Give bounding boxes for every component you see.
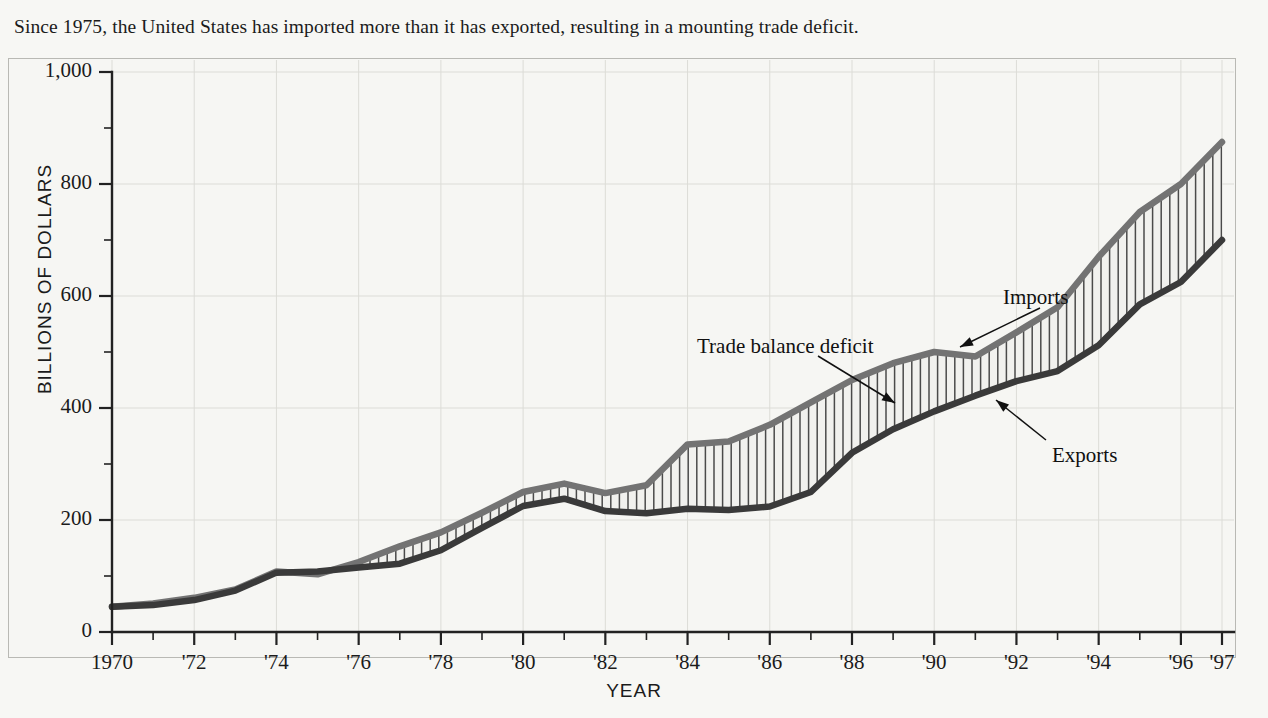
figure-caption: Since 1975, the United States has import… — [14, 14, 1254, 40]
x-tick-label: '90 — [899, 650, 969, 675]
x-tick-label: '88 — [817, 650, 887, 675]
figure-page: Since 1975, the United States has import… — [0, 0, 1268, 718]
y-tick-label: 0 — [0, 618, 92, 643]
annotation-imports: Imports — [1003, 285, 1068, 310]
x-tick-label: '74 — [241, 650, 311, 675]
x-tick-label: '97 — [1187, 650, 1257, 675]
chart-frame — [8, 58, 1236, 658]
y-tick-label: 600 — [0, 282, 92, 307]
x-tick-label: '80 — [488, 650, 558, 675]
x-tick-label: '86 — [735, 650, 805, 675]
y-tick-label: 400 — [0, 394, 92, 419]
x-tick-label: 1970 — [77, 650, 147, 675]
x-tick-label: '78 — [406, 650, 476, 675]
x-tick-label: '76 — [324, 650, 394, 675]
x-axis-title: YEAR — [0, 680, 1268, 702]
y-tick-label: 800 — [0, 170, 92, 195]
x-tick-label: '92 — [981, 650, 1051, 675]
x-tick-label: '72 — [159, 650, 229, 675]
y-tick-label: 200 — [0, 506, 92, 531]
x-tick-label: '82 — [570, 650, 640, 675]
annotation-trade-balance-deficit: Trade balance deficit — [697, 334, 873, 359]
chart-plot-area — [9, 59, 1235, 657]
x-tick-label: '84 — [653, 650, 723, 675]
x-tick-label: '94 — [1064, 650, 1134, 675]
y-tick-label: 1,000 — [0, 58, 92, 83]
annotation-exports: Exports — [1052, 443, 1117, 468]
